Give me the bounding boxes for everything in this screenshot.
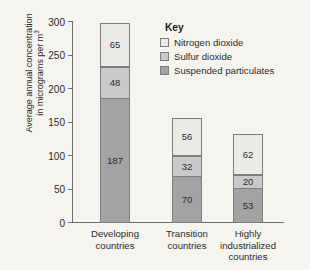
legend-label: Suspended particulates <box>174 65 274 76</box>
bar-segment[interactable]: 187 <box>100 98 130 223</box>
y-tick-mark <box>68 189 72 190</box>
y-tick-mark <box>68 21 72 22</box>
stacked-bar-chart: Average annual concentration in microgra… <box>0 0 310 270</box>
y-axis-title-line-2: in micrograms per m3 <box>35 30 47 115</box>
bar-2[interactable]: 563270 <box>172 118 202 222</box>
bar-segment-value: 65 <box>110 40 121 50</box>
y-tick-label: 150 <box>48 117 65 128</box>
legend-label: Sulfur dioxide <box>174 51 232 62</box>
y-tick-mark <box>68 55 72 56</box>
bar-segment-value: 48 <box>110 78 121 88</box>
legend-label: Nitrogen dioxide <box>174 37 243 48</box>
y-tick-mark <box>68 88 72 89</box>
bar-segment[interactable]: 53 <box>233 188 263 224</box>
category-label-line: industrialized <box>200 240 296 252</box>
bar-3[interactable]: 622053 <box>233 134 263 222</box>
category-label-3: Highlyindustrializedcountries <box>200 228 296 263</box>
bar-1[interactable]: 6548187 <box>100 23 130 222</box>
y-tick-mark <box>68 122 72 123</box>
legend: Key Nitrogen dioxideSulfur dioxideSuspen… <box>160 22 305 79</box>
bar-segment-value: 187 <box>107 156 123 166</box>
y-tick-mark <box>68 222 72 223</box>
bar-segment-value: 32 <box>182 162 193 172</box>
y-tick-mark <box>68 155 72 156</box>
legend-item[interactable]: Suspended particulates <box>160 65 305 76</box>
y-axis-title: Average annual concentration in microgra… <box>18 0 52 168</box>
bar-segment[interactable]: 56 <box>172 118 202 156</box>
legend-rows: Nitrogen dioxideSulfur dioxideSuspended … <box>160 37 305 76</box>
category-label-line: Highly <box>200 228 296 240</box>
y-tick-label: 300 <box>48 16 65 27</box>
y-tick-label: 0 <box>59 217 65 228</box>
y-tick-label: 200 <box>48 83 65 94</box>
bar-segment[interactable]: 20 <box>233 175 263 188</box>
bar-segment-value: 56 <box>182 132 193 142</box>
legend-item[interactable]: Nitrogen dioxide <box>160 37 305 48</box>
y-tick-label: 50 <box>54 184 65 195</box>
legend-swatch <box>160 38 169 47</box>
legend-item[interactable]: Sulfur dioxide <box>160 51 305 62</box>
legend-swatch <box>160 52 169 61</box>
y-axis-line <box>72 21 73 222</box>
bar-segment[interactable]: 70 <box>172 176 202 223</box>
y-tick-label: 100 <box>48 150 65 161</box>
category-label-line: countries <box>200 251 296 263</box>
legend-swatch <box>160 66 169 75</box>
bar-segment[interactable]: 48 <box>100 67 130 99</box>
bar-segment[interactable]: 32 <box>172 156 202 177</box>
y-axis-title-superscript: 3 <box>33 30 40 33</box>
bar-segment[interactable]: 65 <box>100 23 130 67</box>
bar-segment-value: 70 <box>182 195 193 205</box>
y-axis-title-line-2-text: in micrograms per m <box>35 34 45 116</box>
y-tick-label: 250 <box>48 50 65 61</box>
bar-segment-value: 62 <box>243 150 254 160</box>
bar-segment[interactable]: 62 <box>233 134 263 176</box>
legend-title: Key <box>165 22 305 33</box>
bar-segment-value: 20 <box>243 177 254 187</box>
bar-segment-value: 53 <box>243 201 254 211</box>
